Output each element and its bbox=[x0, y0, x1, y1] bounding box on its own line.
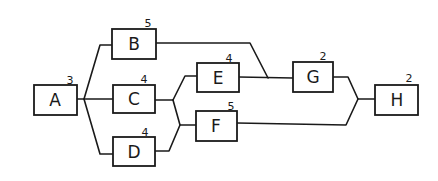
edge-a-b bbox=[84, 45, 112, 99]
edge-f-h bbox=[237, 99, 358, 125]
node-a-duration: 3 bbox=[67, 74, 74, 87]
node-e-duration: 4 bbox=[226, 52, 233, 65]
node-f-label: F bbox=[211, 116, 221, 136]
node-d-duration: 4 bbox=[142, 126, 149, 139]
node-g-duration: 2 bbox=[320, 50, 327, 63]
node-h-label: H bbox=[391, 90, 404, 110]
node-c-label: C bbox=[128, 89, 140, 109]
edge-a-d bbox=[84, 99, 113, 154]
edge-g-h bbox=[333, 77, 375, 99]
node-e: E 4 bbox=[197, 52, 239, 92]
node-b-duration: 5 bbox=[145, 17, 152, 30]
node-h-duration: 2 bbox=[406, 72, 413, 85]
node-c: C 4 bbox=[113, 73, 155, 113]
edge-d-junction bbox=[155, 125, 180, 151]
node-a-label: A bbox=[49, 90, 61, 110]
node-f-duration: 5 bbox=[228, 100, 235, 113]
node-h: H 2 bbox=[375, 72, 418, 115]
edge-e-g bbox=[239, 77, 293, 78]
node-g-label: G bbox=[306, 67, 319, 87]
node-b-label: B bbox=[128, 34, 140, 54]
node-c-duration: 4 bbox=[141, 73, 148, 86]
node-g: G 2 bbox=[293, 50, 333, 92]
node-b: B 5 bbox=[112, 17, 156, 59]
edge-junction-e bbox=[173, 76, 197, 100]
node-e-label: E bbox=[213, 68, 224, 88]
edge-junction-f bbox=[173, 100, 196, 125]
node-f: F 5 bbox=[196, 100, 237, 141]
node-d-label: D bbox=[127, 142, 140, 162]
node-a: A 3 bbox=[34, 74, 77, 115]
node-d: D 4 bbox=[113, 126, 155, 166]
network-diagram: A 3 B 5 C 4 D 4 E 4 F 5 G 2 H 2 bbox=[0, 0, 438, 181]
